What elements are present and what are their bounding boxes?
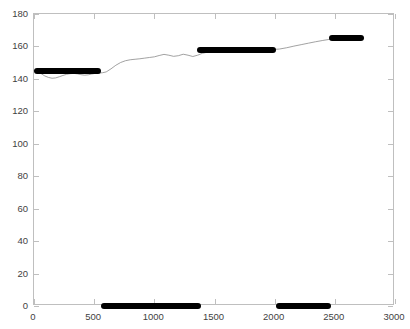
plot-area <box>33 13 394 305</box>
x-tick-label-500: 500 <box>85 311 101 322</box>
plateau-segment-3 <box>329 35 364 41</box>
x-tick-2500 <box>335 299 336 304</box>
y-axis-tick-labels: 020406080100120140160180 <box>0 0 33 329</box>
line-series-trace <box>34 14 395 306</box>
x-tick-top-0 <box>34 14 35 19</box>
y-tick-160 <box>34 46 39 47</box>
y-tick-120 <box>34 111 39 112</box>
x-tick-1500 <box>215 299 216 304</box>
y-tick-label-140: 140 <box>12 72 28 83</box>
y-tick-right-100 <box>388 144 393 145</box>
x-tick-top-1000 <box>154 14 155 19</box>
x-tick-top-2000 <box>275 14 276 19</box>
y-tick-right-120 <box>388 111 393 112</box>
x-tick-500 <box>94 299 95 304</box>
y-tick-20 <box>34 274 39 275</box>
y-tick-label-40: 40 <box>17 235 28 246</box>
y-tick-label-20: 20 <box>17 267 28 278</box>
x-axis-tick-labels: 050010001500200025003000 <box>0 305 410 329</box>
plateau-segment-2 <box>197 47 276 53</box>
x-tick-top-3000 <box>395 14 396 19</box>
y-tick-right-180 <box>388 14 393 15</box>
y-tick-label-80: 80 <box>17 170 28 181</box>
x-tick-label-2000: 2000 <box>263 311 284 322</box>
x-tick-0 <box>34 299 35 304</box>
y-tick-right-60 <box>388 209 393 210</box>
x-tick-2000 <box>275 299 276 304</box>
y-tick-label-100: 100 <box>12 137 28 148</box>
y-tick-80 <box>34 176 39 177</box>
x-tick-top-2500 <box>335 14 336 19</box>
y-tick-right-160 <box>388 46 393 47</box>
x-tick-top-500 <box>94 14 95 19</box>
y-tick-100 <box>34 144 39 145</box>
x-tick-label-1000: 1000 <box>143 311 164 322</box>
y-tick-label-180: 180 <box>12 8 28 19</box>
figure-canvas: 020406080100120140160180 050010001500200… <box>0 0 410 329</box>
y-tick-right-40 <box>388 241 393 242</box>
y-tick-140 <box>34 79 39 80</box>
x-tick-3000 <box>395 299 396 304</box>
y-tick-right-140 <box>388 79 393 80</box>
y-tick-label-160: 160 <box>12 40 28 51</box>
plateau-segment-1 <box>34 68 101 74</box>
x-tick-label-0: 0 <box>30 311 35 322</box>
x-tick-label-1500: 1500 <box>203 311 224 322</box>
x-tick-top-1500 <box>215 14 216 19</box>
y-tick-60 <box>34 209 39 210</box>
y-tick-right-80 <box>388 176 393 177</box>
x-tick-label-3000: 3000 <box>383 311 404 322</box>
x-tick-label-2500: 2500 <box>323 311 344 322</box>
y-tick-right-20 <box>388 274 393 275</box>
y-tick-label-60: 60 <box>17 202 28 213</box>
y-tick-label-120: 120 <box>12 105 28 116</box>
y-tick-40 <box>34 241 39 242</box>
